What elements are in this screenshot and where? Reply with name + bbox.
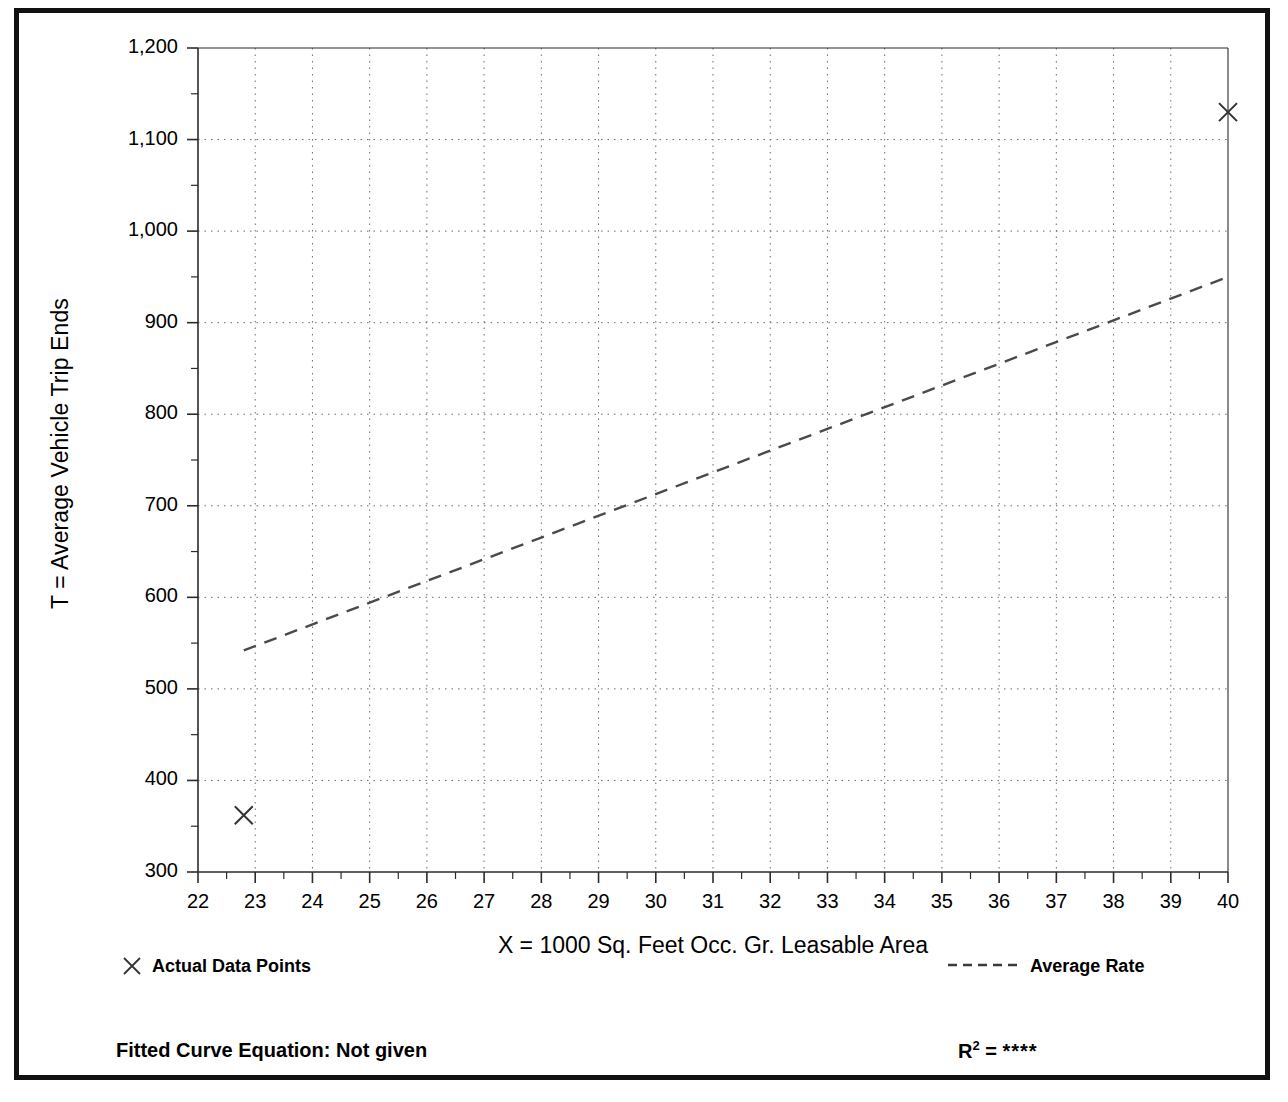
- legend-actual-data-points-label: Actual Data Points: [152, 956, 311, 977]
- r-squared-statistic: R2 = ****: [958, 1038, 1038, 1063]
- x-axis-title: X = 1000 Sq. Feet Occ. Gr. Leasable Area: [198, 932, 1228, 959]
- x-tick-label: 37: [1026, 890, 1086, 913]
- chart-page: 3004005006007008009001,0001,1001,200 222…: [0, 0, 1288, 1102]
- x-tick-label: 26: [397, 890, 457, 913]
- x-tick-label: 29: [569, 890, 629, 913]
- legend-average-rate-label: Average Rate: [1030, 956, 1144, 977]
- legend-dashed-line-icon: [948, 962, 1018, 968]
- y-tick-label: 900: [98, 310, 178, 333]
- x-tick-label: 23: [225, 890, 285, 913]
- x-tick-label: 24: [282, 890, 342, 913]
- x-tick-label: 25: [340, 890, 400, 913]
- y-tick-label: 400: [98, 767, 178, 790]
- x-tick-label: 35: [912, 890, 972, 913]
- x-tick-label: 32: [740, 890, 800, 913]
- x-tick-label: 31: [683, 890, 743, 913]
- y-axis-title: T = Average Vehicle Trip Ends: [47, 244, 74, 664]
- fitted-curve-equation: Fitted Curve Equation: Not given: [116, 1039, 427, 1062]
- average-rate-line: [244, 277, 1228, 651]
- y-tick-label: 500: [98, 676, 178, 699]
- y-tick-label: 800: [98, 401, 178, 424]
- r2-exponent: 2: [972, 1038, 979, 1053]
- chart-figure: 3004005006007008009001,0001,1001,200 222…: [0, 0, 1288, 1102]
- x-tick-label: 39: [1141, 890, 1201, 913]
- data-points: [235, 103, 1237, 824]
- y-tick-label: 600: [98, 584, 178, 607]
- r2-equals: =: [980, 1040, 1003, 1062]
- x-tick-label: 33: [797, 890, 857, 913]
- y-tick-label: 1,000: [98, 218, 178, 241]
- r2-value: ****: [1002, 1040, 1037, 1062]
- x-tick-label: 36: [969, 890, 1029, 913]
- x-tick-label: 22: [168, 890, 228, 913]
- x-tick-label: 28: [511, 890, 571, 913]
- r2-symbol: R: [958, 1040, 972, 1062]
- axis-ticks: [187, 48, 1228, 883]
- y-tick-label: 1,100: [98, 127, 178, 150]
- x-tick-label: 38: [1084, 890, 1144, 913]
- x-tick-label: 27: [454, 890, 514, 913]
- gridlines: [198, 48, 1228, 872]
- y-tick-label: 1,200: [98, 35, 178, 58]
- legend-x-marker-icon: [120, 954, 144, 978]
- x-tick-label: 34: [855, 890, 915, 913]
- y-tick-label: 300: [98, 859, 178, 882]
- x-tick-label: 40: [1198, 890, 1258, 913]
- y-tick-label: 700: [98, 493, 178, 516]
- x-tick-label: 30: [626, 890, 686, 913]
